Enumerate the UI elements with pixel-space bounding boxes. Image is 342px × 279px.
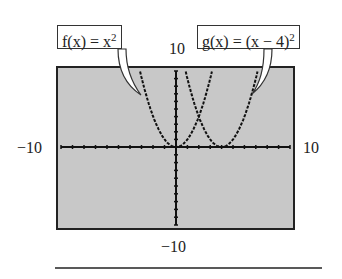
f-label-callout: f(x) = x2 [57, 25, 122, 49]
f-exponent: 2 [111, 31, 117, 43]
ymax-label: 10 [169, 40, 185, 58]
ymin-label: −10 [161, 238, 186, 256]
g-label-callout: g(x) = (x − 4)2 [197, 25, 300, 49]
xmin-label: −10 [17, 139, 42, 157]
f-label: f(x) = x [62, 33, 111, 50]
g-exponent: 2 [289, 31, 295, 43]
xmax-label: 10 [303, 139, 319, 157]
g-label: g(x) = (x − 4) [202, 33, 289, 50]
